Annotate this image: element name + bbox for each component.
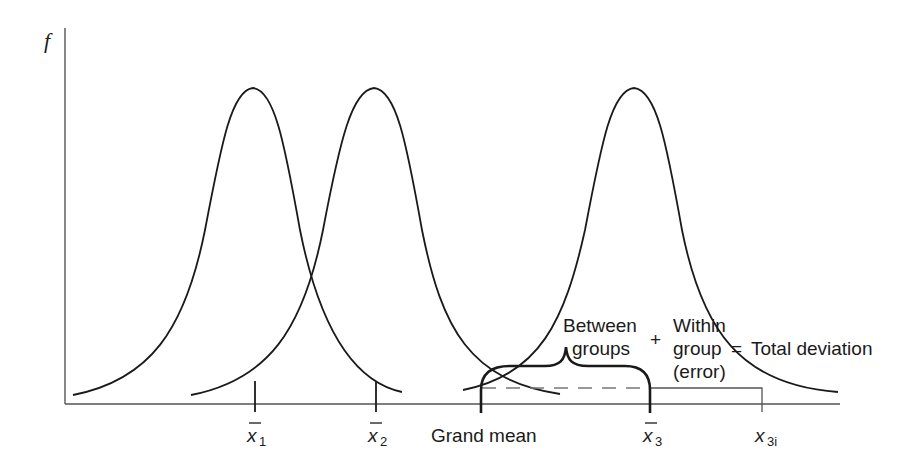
svg-text:x: x	[367, 425, 379, 446]
y-axis-label: f	[44, 28, 53, 53]
between-label-line1: Between	[563, 315, 637, 336]
svg-text:x: x	[642, 425, 654, 446]
within-group-bracket	[650, 388, 762, 412]
tick-label-x3i: x 3i	[754, 425, 777, 449]
within-label-line1: Within	[673, 315, 726, 336]
grand-mean-label: Grand mean	[431, 425, 537, 446]
tick-label-x2: x 2	[367, 423, 387, 449]
svg-text:1: 1	[259, 434, 266, 449]
plus-sign: +	[650, 329, 661, 350]
tick-label-x1: x 1	[246, 423, 266, 449]
svg-text:x: x	[754, 425, 766, 446]
svg-text:x: x	[246, 425, 258, 446]
within-label-line2: group	[673, 338, 722, 359]
svg-text:3i: 3i	[767, 434, 777, 449]
svg-text:3: 3	[655, 434, 662, 449]
anova-diagram: f x 1 x 2 Grand mean x 3 x 3i Between gr…	[0, 0, 917, 466]
tick-label-x3: x 3	[642, 423, 662, 449]
svg-text:2: 2	[380, 434, 387, 449]
equals-sign: =	[731, 338, 742, 359]
within-label-line3: (error)	[673, 361, 726, 382]
between-label-line2: groups	[572, 338, 630, 359]
group-1-curve	[73, 88, 402, 395]
group-2-curve	[191, 88, 560, 395]
total-deviation-label: Total deviation	[751, 338, 872, 359]
